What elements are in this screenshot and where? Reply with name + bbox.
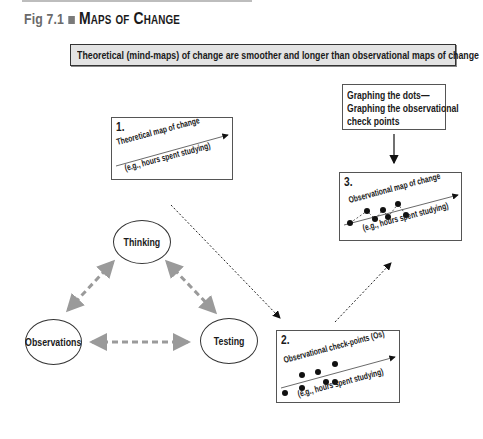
box2-to-box3-arrow bbox=[335, 263, 391, 322]
node-observations: Observations bbox=[25, 319, 82, 365]
thinking-testing-arrow bbox=[167, 262, 215, 312]
box1-to-box2-arrow bbox=[171, 205, 280, 318]
thinking-observations-arrow bbox=[68, 262, 113, 310]
panel-observational-map: 3. Observational map of change (e.g., ho… bbox=[339, 172, 462, 241]
node-label: Thinking bbox=[124, 236, 161, 248]
panel-theoretical-map: 1. Theoretical map of change (e.g., hour… bbox=[111, 117, 233, 180]
node-label: Testing bbox=[214, 335, 245, 347]
node-label: Observations bbox=[25, 336, 81, 348]
node-thinking: Thinking bbox=[113, 220, 171, 264]
node-testing: Testing bbox=[200, 318, 258, 364]
panel-observational-checkpoints: 2. Observational check-points (Os) (e.g.… bbox=[276, 330, 400, 403]
